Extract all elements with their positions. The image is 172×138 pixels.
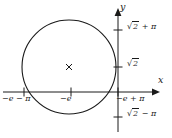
radicand: 2 <box>132 58 139 68</box>
term: π <box>151 109 156 118</box>
x-tick-label-minus-e: −e <box>60 95 71 103</box>
term: −e <box>60 94 71 103</box>
operator: − <box>13 94 25 103</box>
term: −e <box>2 94 13 103</box>
term: π <box>151 22 156 31</box>
y-tick-label-sqrt2-plus-pi: √2 + π <box>127 23 156 31</box>
operator: − <box>139 109 151 118</box>
y-tick-label-sqrt2: √2 <box>127 60 139 68</box>
operator: + <box>139 22 151 31</box>
x-axis-label: x <box>158 75 163 85</box>
term: π <box>25 94 30 103</box>
x-tick-label-minus-e-minus-pi: −e − π <box>2 95 31 103</box>
x-tick-label-minus-e-plus-pi: −e + π <box>116 95 145 103</box>
circle-center-marker <box>66 64 72 70</box>
term: −e <box>116 94 127 103</box>
operator: + <box>127 94 139 103</box>
y-axis-label: y <box>120 2 125 12</box>
y-tick-label-sqrt2-minus-pi: √2 − π <box>127 110 156 118</box>
term: π <box>139 94 144 103</box>
math-figure: y x √2 + π √2 √2 − π −e − π −e −e + π <box>0 0 172 138</box>
